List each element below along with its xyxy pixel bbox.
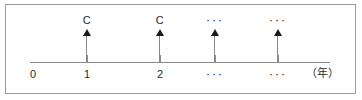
cashflow-arrow-year-1 — [81, 30, 93, 62]
arrow-top-label-year-2: C — [150, 14, 170, 26]
arrow-top-label-year-3: ··· — [197, 14, 233, 26]
arrow-stem-icon — [277, 36, 278, 62]
arrow-up-icon — [274, 29, 282, 36]
axis-label-3: ··· — [197, 68, 233, 80]
arrow-up-icon — [83, 29, 91, 36]
arrow-stem-icon — [214, 36, 215, 62]
arrow-stem-icon — [159, 36, 160, 62]
arrow-stem-icon — [86, 36, 87, 62]
axis-label-0: 0 — [25, 68, 41, 80]
arrow-up-icon — [211, 29, 219, 36]
axis-unit-label: （年） — [306, 68, 339, 80]
axis-label-4: ··· — [260, 68, 296, 80]
arrow-top-label-year-1: C — [77, 14, 97, 26]
figure-root: C C ··· ··· 0 1 2 ··· ··· （年） — [0, 0, 362, 100]
cashflow-arrow-year-3 — [209, 30, 221, 62]
figure-frame — [5, 4, 356, 94]
cashflow-arrow-year-4 — [272, 30, 284, 62]
axis-label-2: 2 — [152, 68, 168, 80]
timeline-axis — [30, 62, 330, 63]
arrow-top-label-year-4: ··· — [260, 14, 296, 26]
cashflow-arrow-year-2 — [154, 30, 166, 62]
arrow-up-icon — [156, 29, 164, 36]
axis-label-1: 1 — [79, 68, 95, 80]
